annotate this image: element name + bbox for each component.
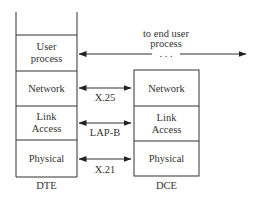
dce-label: DCE [156,180,177,191]
protocol-stack-diagram: User process Network Link Access Physica… [0,0,261,203]
lapb-label: LAP-B [90,127,120,138]
dte-layer-user-process-line1: User [37,41,57,52]
dce-layer-physical: Physical [149,153,185,164]
dte-layer-network: Network [28,83,65,94]
dce-layer-network: Network [148,83,185,94]
dce-layer-link-line1: Link [157,112,178,123]
x21-label: X.21 [95,164,116,175]
dte-layer-link-line2: Access [32,123,62,134]
dce-layer-link-line2: Access [152,124,182,135]
end-user-dots: . . . [159,48,172,59]
dte-layer-link-line1: Link [37,111,58,122]
dte-label: DTE [36,180,56,191]
dte-layer-physical: Physical [29,153,65,164]
dte-layer-user-process-line2: process [31,53,63,64]
x25-label: X.25 [95,92,116,103]
